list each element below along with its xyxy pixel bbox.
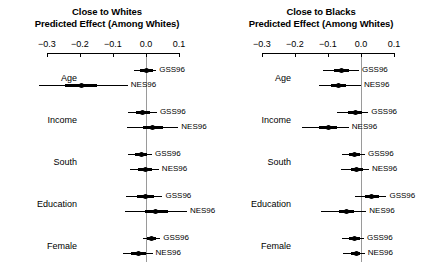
category-label-income: Income bbox=[47, 115, 77, 124]
point-estimate-marker bbox=[326, 125, 331, 130]
series-label-nes96: NES96 bbox=[131, 81, 156, 89]
series-label-nes96: NES96 bbox=[364, 81, 389, 89]
series-label-gss96: GSS96 bbox=[166, 192, 192, 200]
x-axis-tick-label: 0.0 bbox=[355, 40, 368, 49]
panel-title: Close to WhitesPredicted Effect (Among W… bbox=[0, 6, 214, 29]
x-axis-tick bbox=[47, 53, 48, 57]
x-axis-tick-label: −0.3 bbox=[253, 40, 271, 49]
point-estimate-marker bbox=[144, 68, 149, 73]
series-label-gss96: GSS96 bbox=[155, 150, 181, 158]
x-axis-tick-label: −0.3 bbox=[38, 40, 56, 49]
point-estimate-marker bbox=[140, 110, 145, 115]
x-axis-tick-label: −0.2 bbox=[71, 40, 89, 49]
x-axis-tick bbox=[394, 53, 395, 57]
point-estimate-marker bbox=[354, 167, 359, 172]
point-estimate-marker bbox=[139, 152, 144, 157]
x-axis-tick bbox=[80, 53, 81, 57]
panel-title: Close to BlacksPredicted Effect (Among W… bbox=[214, 6, 428, 29]
x-axis-tick-label: −0.2 bbox=[286, 40, 304, 49]
point-estimate-marker bbox=[344, 209, 349, 214]
point-estimate-marker bbox=[352, 152, 357, 157]
series-label-gss96: GSS96 bbox=[362, 66, 388, 74]
point-estimate-marker bbox=[353, 110, 358, 115]
x-axis-tick bbox=[361, 53, 362, 57]
point-estimate-marker bbox=[352, 236, 357, 241]
series-label-nes96: NES96 bbox=[352, 123, 377, 131]
series-label-nes96: NES96 bbox=[368, 249, 393, 257]
category-label-south: South bbox=[267, 157, 291, 166]
panel-title-outcome: Close to Whites bbox=[0, 6, 214, 18]
point-estimate-marker bbox=[339, 68, 344, 73]
x-axis-tick-label: 0.1 bbox=[388, 40, 401, 49]
series-label-gss96: GSS96 bbox=[367, 234, 393, 242]
point-estimate-marker bbox=[369, 194, 374, 199]
x-axis-tick bbox=[113, 53, 114, 57]
panel-title-axis-label: Predicted Effect (Among Whites) bbox=[0, 18, 214, 30]
category-label-south: South bbox=[53, 157, 77, 166]
series-label-nes96: NES96 bbox=[190, 207, 215, 215]
series-label-nes96: NES96 bbox=[372, 165, 397, 173]
panel-title-axis-label: Predicted Effect (Among Whites) bbox=[214, 18, 428, 30]
point-estimate-marker bbox=[143, 167, 148, 172]
zero-reference-line bbox=[361, 57, 362, 262]
category-label-age: Age bbox=[61, 73, 77, 82]
category-label-education: Education bbox=[37, 199, 77, 208]
point-estimate-marker bbox=[149, 236, 154, 241]
series-label-gss96: GSS96 bbox=[371, 108, 397, 116]
x-axis-tick bbox=[179, 53, 180, 57]
point-estimate-marker bbox=[153, 209, 158, 214]
point-estimate-marker bbox=[354, 251, 359, 256]
category-label-income: Income bbox=[261, 115, 291, 124]
category-label-education: Education bbox=[251, 199, 291, 208]
panel-close-to-blacks: Close to BlacksPredicted Effect (Among W… bbox=[214, 0, 428, 268]
x-axis-tick bbox=[295, 53, 296, 57]
point-estimate-marker bbox=[136, 251, 141, 256]
series-label-nes96: NES96 bbox=[369, 207, 394, 215]
x-axis-tick-label: −0.1 bbox=[319, 40, 337, 49]
x-axis-tick-label: −0.1 bbox=[104, 40, 122, 49]
coefficient-plot-figure: Close to WhitesPredicted Effect (Among W… bbox=[0, 0, 428, 268]
x-axis-tick bbox=[146, 53, 147, 57]
series-label-nes96: NES96 bbox=[181, 123, 206, 131]
point-estimate-marker bbox=[143, 194, 148, 199]
panel-title-outcome: Close to Blacks bbox=[214, 6, 428, 18]
category-label-age: Age bbox=[275, 73, 291, 82]
series-label-gss96: GSS96 bbox=[159, 66, 185, 74]
series-label-nes96: NES96 bbox=[162, 165, 187, 173]
series-label-gss96: GSS96 bbox=[389, 192, 415, 200]
series-label-gss96: GSS96 bbox=[160, 108, 186, 116]
x-axis-tick bbox=[262, 53, 263, 57]
point-estimate-marker bbox=[79, 83, 84, 88]
panel-close-to-whites: Close to WhitesPredicted Effect (Among W… bbox=[0, 0, 214, 268]
series-label-nes96: NES96 bbox=[156, 249, 181, 257]
x-axis-tick-label: 0.1 bbox=[173, 40, 186, 49]
point-estimate-marker bbox=[336, 83, 341, 88]
point-estimate-marker bbox=[150, 125, 155, 130]
x-axis-tick bbox=[328, 53, 329, 57]
category-label-female: Female bbox=[47, 241, 77, 250]
category-label-female: Female bbox=[261, 241, 291, 250]
x-axis-tick-label: 0.0 bbox=[140, 40, 153, 49]
series-label-gss96: GSS96 bbox=[368, 150, 394, 158]
series-label-gss96: GSS96 bbox=[163, 234, 189, 242]
